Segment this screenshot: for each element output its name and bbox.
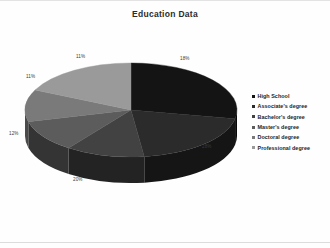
legend-swatch-icon bbox=[252, 115, 255, 118]
pie-top-surface bbox=[25, 63, 237, 157]
plot-area: 28%20%12%11%11%18% bbox=[0, 1, 250, 248]
legend-item-label: Doctoral degree bbox=[258, 134, 300, 140]
legend-item[interactable]: Associate's degree bbox=[252, 101, 330, 111]
legend-item-label: Bachelor's degree bbox=[258, 114, 305, 120]
legend-item-label: Master's degree bbox=[258, 124, 300, 130]
pie-slice[interactable] bbox=[131, 63, 237, 119]
slice-percent-label: 12% bbox=[9, 131, 19, 136]
chart-legend: High SchoolAssociate's degreeBachelor's … bbox=[252, 91, 330, 153]
legend-item[interactable]: Professional degree bbox=[252, 142, 330, 152]
legend-swatch-icon bbox=[252, 95, 255, 98]
legend-swatch-icon bbox=[252, 136, 255, 139]
slice-percent-label: 11% bbox=[26, 74, 35, 79]
pie-svg bbox=[25, 63, 237, 175]
legend-item-label: Professional degree bbox=[258, 145, 310, 151]
slice-percent-label: 28% bbox=[202, 144, 212, 149]
slice-percent-label: 20% bbox=[73, 177, 83, 182]
legend-item[interactable]: High School bbox=[252, 91, 330, 101]
pie-chart bbox=[25, 63, 237, 175]
legend-item[interactable]: Doctoral degree bbox=[252, 132, 330, 142]
slice-percent-label: 18% bbox=[180, 56, 190, 61]
legend-item[interactable]: Bachelor's degree bbox=[252, 112, 330, 122]
legend-item[interactable]: Master's degree bbox=[252, 122, 330, 132]
slice-percent-label: 11% bbox=[76, 54, 85, 59]
legend-item-label: High School bbox=[258, 93, 290, 99]
legend-swatch-icon bbox=[252, 126, 255, 129]
chart-canvas: Education Data 28%20%12%11%11%18% High S… bbox=[0, 0, 330, 248]
legend-item-label: Associate's degree bbox=[258, 103, 308, 109]
bottom-divider bbox=[0, 242, 330, 243]
legend-swatch-icon bbox=[252, 105, 255, 108]
legend-swatch-icon bbox=[252, 146, 255, 149]
